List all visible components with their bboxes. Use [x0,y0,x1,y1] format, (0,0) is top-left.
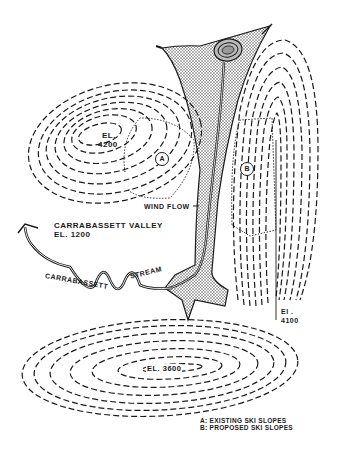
map-legend: A: EXISTING SKI SLOPES B: PROPOSED SKI S… [200,417,293,431]
marker-a: A [155,152,169,166]
contour-drawing [0,0,338,453]
peak-b-el-value: 4100 [281,316,299,325]
peak-a-elevation-label: EL. 4200 [102,131,118,149]
marker-b: B [240,162,254,176]
peak-a-el-value: 4200 [98,140,118,149]
valley-elevation: EL. 1200 [54,230,163,239]
peak-b-el-prefix: El . [281,307,299,316]
peak-a-el-prefix: EL. [102,131,118,140]
valley-name: CARRABASSETT VALLEY [54,221,163,230]
peak-c-elevation-label: EL. 3600 [146,364,182,373]
valley-label: CARRABASSETT VALLEY EL. 1200 [54,221,163,239]
wind-flow-label: WIND FLOW [144,202,190,211]
topographic-map: EL. 4200 A B WIND FLOW CARRABASSETT VALL… [0,0,338,453]
peak-b-elevation-label: El . 4100 [281,307,299,325]
legend-item-a: A: EXISTING SKI SLOPES [200,417,293,424]
legend-item-b: B: PROPOSED SKI SLOPES [200,424,293,431]
